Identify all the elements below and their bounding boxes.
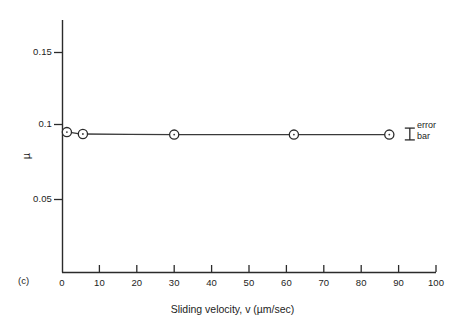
error-bar-icon (405, 128, 415, 140)
error-bar-label-line2: bar (417, 131, 436, 142)
x-tick-label-0: 0 (48, 277, 76, 288)
x-tick-label-20: 20 (123, 277, 151, 288)
x-tick-label-70: 70 (310, 277, 338, 288)
error-bar-label-line1: error (417, 120, 436, 131)
data-series-line (67, 132, 389, 135)
y-tick-label-0.15: 0.15 (8, 46, 52, 57)
x-axis-title: Sliding velocity, v (µm/sec) (0, 303, 465, 315)
x-tick-label-10: 10 (85, 277, 113, 288)
data-point-markers (62, 128, 394, 140)
x-tick-label-40: 40 (198, 277, 226, 288)
x-tick-label-100: 100 (422, 277, 450, 288)
data-point-center (173, 134, 175, 136)
x-tick-label-80: 80 (347, 277, 375, 288)
data-point-center (82, 133, 84, 135)
figure-panel-c: 0.15 0.1 0.05 0 10 20 30 40 50 60 70 80 … (0, 0, 465, 332)
data-point-center (66, 131, 68, 133)
data-point-center (388, 134, 390, 136)
x-tick-marks (99, 265, 436, 272)
x-tick-label-90: 90 (385, 277, 413, 288)
x-tick-label-50: 50 (235, 277, 263, 288)
y-tick-label-0.1: 0.1 (8, 118, 52, 129)
y-tick-label-0.05: 0.05 (8, 193, 52, 204)
error-bar-label: error bar (417, 120, 436, 141)
y-tick-marks (54, 53, 62, 200)
data-point-center (293, 134, 295, 136)
x-tick-label-60: 60 (272, 277, 300, 288)
x-tick-label-30: 30 (160, 277, 188, 288)
panel-label: (c) (18, 275, 29, 286)
y-axis-title: µ (20, 144, 32, 168)
